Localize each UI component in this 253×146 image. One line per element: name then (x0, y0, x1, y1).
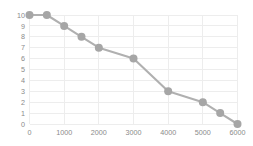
y-tick-label-2: 2 (21, 98, 25, 107)
y-tick-label-10: 10 (17, 11, 25, 20)
x-tick-label-6000: 6000 (230, 128, 246, 137)
y-tick-label-6: 6 (21, 54, 25, 63)
chart-canvas: 012345678910 0100020003000400050006000 0… (0, 0, 253, 146)
x-tick-label-2000: 2000 (91, 128, 107, 137)
data-point[interactable]: 6000, 0 (234, 120, 242, 128)
y-tick-label-4: 4 (21, 76, 25, 85)
data-point[interactable]: 1500, 8 (78, 33, 86, 41)
data-point[interactable]: 5500, 1 (216, 109, 224, 117)
data-point[interactable]: 3000, 6 (130, 55, 138, 63)
x-tick-label-4000: 4000 (160, 128, 176, 137)
x-tick-label-5000: 5000 (195, 128, 211, 137)
y-tick-label-0: 0 (21, 120, 25, 129)
data-point[interactable]: 5000, 2 (199, 98, 207, 106)
data-point[interactable]: 2000, 7 (95, 44, 103, 52)
y-tick-label-7: 7 (21, 43, 25, 52)
data-point[interactable]: 500, 10 (43, 11, 51, 19)
x-tick-label-3000: 3000 (126, 128, 142, 137)
y-tick-label-8: 8 (21, 32, 25, 41)
y-tick-label-5: 5 (21, 65, 25, 74)
y-tick-label-1: 1 (21, 109, 25, 118)
x-tick-label-0: 0 (28, 128, 32, 137)
line-chart: 012345678910 0100020003000400050006000 0… (0, 0, 253, 146)
data-point[interactable]: 4000, 3 (164, 87, 172, 95)
y-tick-label-3: 3 (21, 87, 25, 96)
y-tick-label-9: 9 (21, 22, 25, 31)
data-point[interactable]: 0, 10 (26, 11, 34, 19)
data-point[interactable]: 1000, 9 (60, 22, 68, 30)
x-tick-label-1000: 1000 (56, 128, 72, 137)
